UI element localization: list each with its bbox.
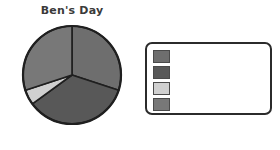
legend-swatch-4 bbox=[153, 98, 170, 111]
pie-chart-svg bbox=[21, 24, 123, 126]
legend-items bbox=[153, 49, 175, 111]
legend-item[interactable] bbox=[153, 65, 175, 79]
legend-item[interactable] bbox=[153, 97, 175, 111]
chart-title: Ben's Day bbox=[16, 4, 128, 17]
legend-item[interactable] bbox=[153, 81, 175, 95]
legend-item[interactable] bbox=[153, 49, 175, 63]
legend-box bbox=[145, 42, 272, 115]
pie-chart bbox=[21, 24, 123, 126]
legend-swatch-2 bbox=[153, 66, 170, 79]
legend-swatch-3 bbox=[153, 82, 170, 95]
chart-canvas: Ben's Day bbox=[0, 0, 280, 150]
legend-swatch-1 bbox=[153, 50, 170, 63]
